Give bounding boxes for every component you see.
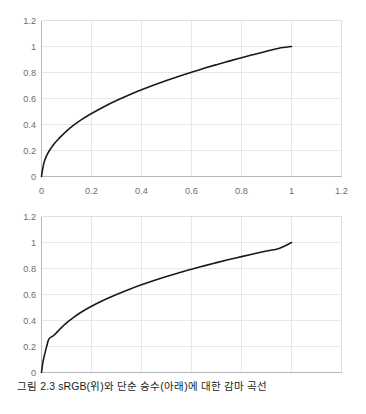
data-curve-srgb <box>42 47 292 177</box>
chart-srgb-plot: 1.2 1 0.8 0.6 0.4 0.2 0 0 0.2 0.4 0.6 0.… <box>0 6 366 202</box>
y-tick-label: 0.8 <box>23 68 36 78</box>
y-tick-label: 0.2 <box>23 342 36 352</box>
chart-simple-power-gamma-curve: 1.2 1 0.8 0.6 0.4 0.2 0 0 0.2 0.4 0.6 0.… <box>0 202 366 378</box>
y-tick-label: 1.2 <box>23 212 36 222</box>
y-tick-label: 0.8 <box>23 264 36 274</box>
y-axis-tick-labels: 1.2 1 0.8 0.6 0.4 0.2 0 <box>23 16 36 182</box>
chart-power-plot: 1.2 1 0.8 0.6 0.4 0.2 0 0 0.2 0.4 0.6 0.… <box>0 202 366 378</box>
y-tick-label: 1.2 <box>23 16 36 26</box>
y-tick-label: 0.6 <box>23 94 36 104</box>
y-tick-label: 0.4 <box>23 120 36 130</box>
y-axis-tick-labels: 1.2 1 0.8 0.6 0.4 0.2 0 <box>23 212 36 378</box>
y-tick-label: 1 <box>31 238 36 248</box>
x-tick-label: 0 <box>39 186 44 196</box>
figure-container: 1.2 1 0.8 0.6 0.4 0.2 0 0 0.2 0.4 0.6 0.… <box>0 0 366 414</box>
x-tick-label: 0.6 <box>185 186 198 196</box>
x-tick-label: 0.2 <box>85 186 98 196</box>
x-axis-tick-labels: 0 0.2 0.4 0.6 0.8 1 1.2 <box>39 186 348 196</box>
chart-srgb-gamma-curve: 1.2 1 0.8 0.6 0.4 0.2 0 0 0.2 0.4 0.6 0.… <box>0 6 366 202</box>
y-tick-label: 0.2 <box>23 146 36 156</box>
y-tick-label: 0 <box>31 368 36 378</box>
figure-caption: 그림 2.3 sRGB(위)와 단순 승수(아래)에 대한 감마 곡선 <box>0 379 366 394</box>
x-tick-label: 1.2 <box>335 186 348 196</box>
x-tick-label: 0.4 <box>135 186 148 196</box>
y-tick-label: 0.6 <box>23 290 36 300</box>
x-tick-label: 1 <box>289 186 294 196</box>
y-tick-label: 1 <box>31 42 36 52</box>
y-tick-label: 0 <box>31 172 36 182</box>
y-tick-label: 0.4 <box>23 316 36 326</box>
x-tick-label: 0.8 <box>235 186 248 196</box>
data-curve-simple-power <box>42 243 292 373</box>
